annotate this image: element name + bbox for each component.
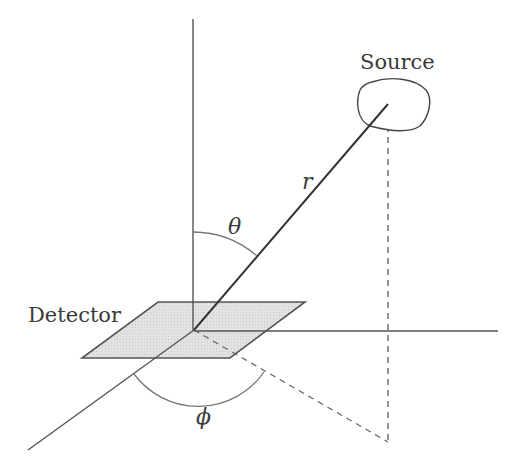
- source-blob: [358, 79, 430, 131]
- theta-arc: [193, 232, 257, 256]
- projection-line: [194, 330, 388, 442]
- detector-label: Detector: [28, 303, 122, 327]
- theta-label: θ: [228, 214, 241, 239]
- phi-label: ϕ: [196, 404, 211, 429]
- r-label: r: [302, 169, 314, 194]
- diagram-svg: Source Detector r θ ϕ: [0, 0, 517, 473]
- source-label: Source: [360, 50, 435, 74]
- ray-r: [194, 104, 388, 330]
- phi-arc: [134, 372, 264, 406]
- spherical-coordinates-diagram: Source Detector r θ ϕ: [0, 0, 517, 473]
